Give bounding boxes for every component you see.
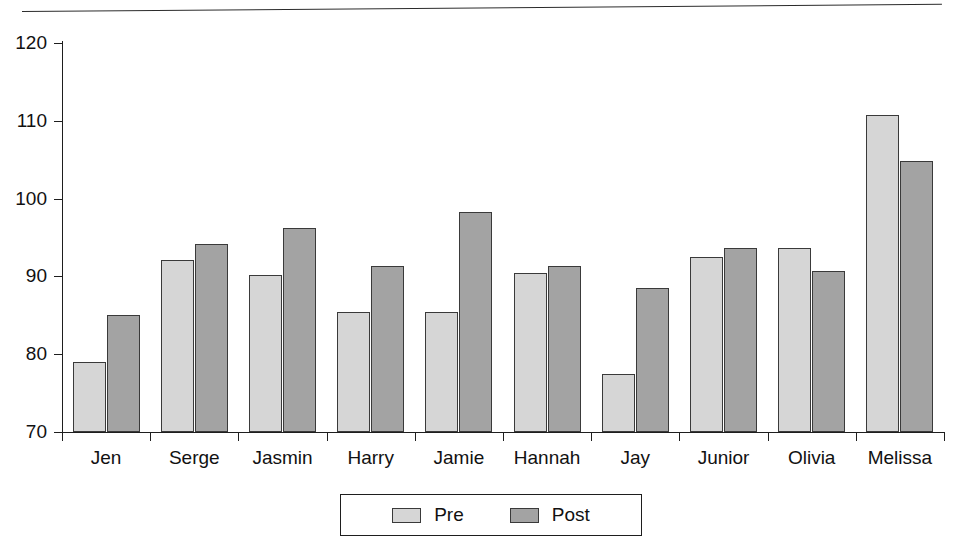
x-axis-tick: [679, 432, 680, 441]
y-axis-tick-label: 90: [26, 266, 47, 286]
y-axis-tick: 90: [54, 276, 62, 277]
bar-chart-figure: 708090100110120 JenSergeJasminHarryJamie…: [0, 0, 971, 556]
bar-group: [249, 43, 316, 432]
bar-group: [778, 43, 845, 432]
legend-entry-pre: Pre: [392, 505, 464, 525]
bar-group: [690, 43, 757, 432]
bar-post-jay: [636, 288, 669, 432]
y-axis-tick-label: 100: [15, 189, 47, 209]
bar-pre-junior: [690, 257, 723, 432]
x-axis-tick: [944, 432, 945, 441]
legend-label-pre: Pre: [434, 505, 464, 525]
bar-pre-hannah: [514, 273, 547, 432]
bar-pre-jay: [602, 374, 635, 432]
y-axis-tick-label: 120: [15, 33, 47, 53]
x-axis-tick: [591, 432, 592, 441]
bar-group: [161, 43, 228, 432]
bar-post-melissa: [900, 161, 933, 432]
y-axis-tick: 100: [54, 199, 62, 200]
x-axis-tick: [62, 432, 63, 441]
pre-swatch-icon: [392, 508, 421, 523]
y-axis-tick-label: 70: [26, 422, 47, 442]
top-horizontal-rule: [22, 4, 942, 12]
x-axis-tick: [238, 432, 239, 441]
x-axis-tick: [150, 432, 151, 441]
bar-post-jamie: [459, 212, 492, 432]
y-axis-tick: 70: [54, 432, 62, 433]
bar-post-serge: [195, 244, 228, 432]
legend-entry-post: Post: [510, 505, 590, 525]
x-axis-tick: [415, 432, 416, 441]
bar-pre-melissa: [866, 115, 899, 432]
bar-group: [866, 43, 933, 432]
y-axis-tick-label: 80: [26, 344, 47, 364]
x-axis-tick: [503, 432, 504, 441]
y-axis-tick-label: 110: [17, 111, 47, 131]
bar-post-junior: [724, 248, 757, 432]
x-axis-tick: [768, 432, 769, 441]
bar-pre-harry: [337, 312, 370, 432]
y-axis-tick: 120: [54, 43, 62, 44]
bar-group: [337, 43, 404, 432]
x-axis-tick: [327, 432, 328, 441]
bar-group: [602, 43, 669, 432]
bar-post-jasmin: [283, 228, 316, 432]
x-axis-tick: [856, 432, 857, 441]
bar-pre-jamie: [425, 312, 458, 432]
y-axis-line: [62, 41, 63, 434]
bar-pre-jen: [73, 362, 106, 432]
category-label-melissa: Melissa: [820, 447, 971, 469]
bar-pre-jasmin: [249, 275, 282, 432]
chart-legend: PrePost: [340, 494, 642, 536]
bar-group: [514, 43, 581, 432]
bar-post-jen: [107, 315, 140, 432]
y-axis-tick: 80: [54, 354, 62, 355]
legend-label-post: Post: [552, 505, 590, 525]
plot-area: 708090100110120 JenSergeJasminHarryJamie…: [62, 43, 944, 432]
post-swatch-icon: [510, 508, 539, 523]
bar-group: [425, 43, 492, 432]
bar-group: [73, 43, 140, 432]
bar-post-harry: [371, 266, 404, 432]
bar-pre-olivia: [778, 248, 811, 432]
bar-post-hannah: [548, 266, 581, 432]
y-axis-tick: 110: [54, 121, 62, 122]
bar-pre-serge: [161, 260, 194, 432]
bar-post-olivia: [812, 271, 845, 432]
